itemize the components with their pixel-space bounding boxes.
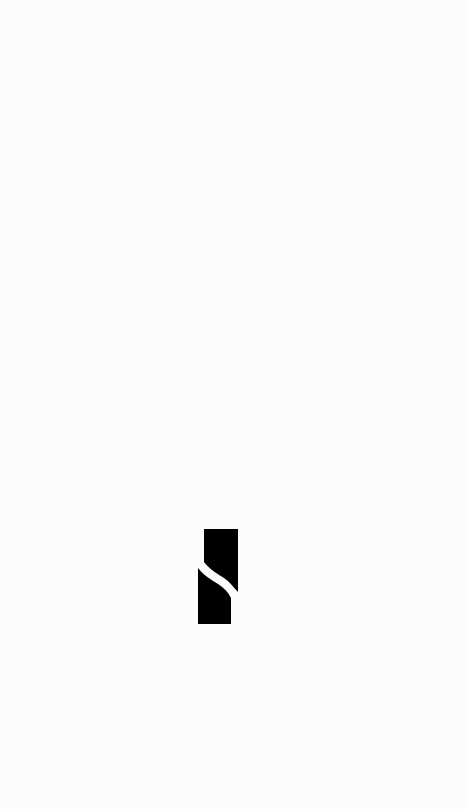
app-logo-icon bbox=[196, 528, 240, 626]
splash-screen bbox=[0, 0, 468, 809]
